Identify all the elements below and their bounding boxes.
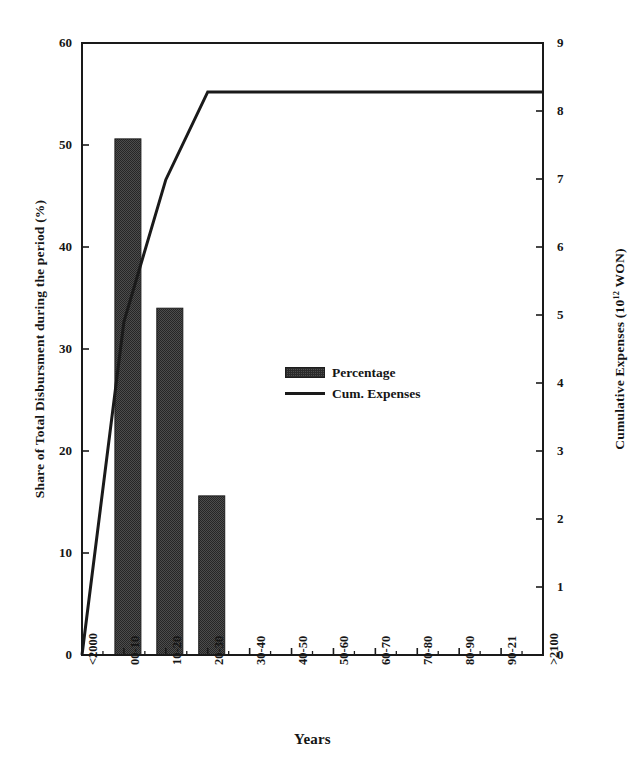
axes-group [82, 43, 543, 655]
x-axis-tick-label-10-20: 10-20 [171, 636, 184, 665]
bar-20-30 [199, 496, 225, 655]
legend-item-percentage: Percentage [285, 362, 421, 383]
legend-label-percentage: Percentage [332, 365, 395, 381]
x-axis-tick-label-50-60: 50-60 [338, 636, 351, 665]
y-axis-left-tick-label-60: 60 [42, 36, 72, 49]
x-axis-tick-label-70-80: 70-80 [422, 636, 435, 665]
y-axis-left-tick-label-40: 40 [42, 240, 72, 253]
y-axis-right-tick-label-5: 5 [557, 308, 587, 321]
y-axis-right-tick-label-6: 6 [557, 240, 587, 253]
legend-line-swatch-icon [285, 392, 325, 395]
y-axis-right-tick-label-2: 2 [557, 512, 587, 525]
bar-00-10 [115, 139, 141, 655]
x-axis-tick-label-20-30: 20-30 [213, 636, 226, 665]
legend-bar-swatch-icon [285, 367, 325, 378]
chart-figure: Share of Total Disbursment during the pe… [0, 0, 631, 763]
y-axis-left-tick-label-50: 50 [42, 138, 72, 151]
plot-border [82, 43, 543, 655]
y-axis-right-tick-label-8: 8 [557, 104, 587, 117]
x-axis-tick-label-40-50: 40-50 [297, 636, 310, 665]
y-axis-right-tick-label-7: 7 [557, 172, 587, 185]
y-axis-left-tick-label-30: 30 [42, 342, 72, 355]
y-axis-right-tick-label-1: 1 [557, 580, 587, 593]
x-axis-tick-label-<2000: <2000 [87, 633, 100, 665]
x-axis-tick-label-00-10: 00-10 [129, 636, 142, 665]
x-axis-tick-label-80-90: 80-90 [464, 636, 477, 665]
y-axis-right-tick-label-0: 0 [557, 648, 587, 661]
y-axis-right-tick-label-9: 9 [557, 36, 587, 49]
legend-item-cum-expenses: Cum. Expenses [285, 383, 421, 404]
x-axis-tick-label-60-70: 60-70 [380, 636, 393, 665]
legend-label-cum-expenses: Cum. Expenses [332, 386, 421, 402]
chart-legend: Percentage Cum. Expenses [285, 362, 421, 404]
y-axis-right-tick-label-3: 3 [557, 444, 587, 457]
x-axis-tick-label-30-40: 30-40 [255, 636, 268, 665]
x-axis-tick-label-90-21: 90-21 [506, 636, 519, 665]
y-axis-left-tick-label-20: 20 [42, 444, 72, 457]
y-axis-left-tick-label-0: 0 [42, 648, 72, 661]
x-axis-tick-label->2100: >2100 [548, 633, 561, 665]
bars-group [115, 139, 225, 655]
y-axis-left-tick-label-10: 10 [42, 546, 72, 559]
y-axis-right-tick-label-4: 4 [557, 376, 587, 389]
bar-10-20 [157, 308, 183, 655]
